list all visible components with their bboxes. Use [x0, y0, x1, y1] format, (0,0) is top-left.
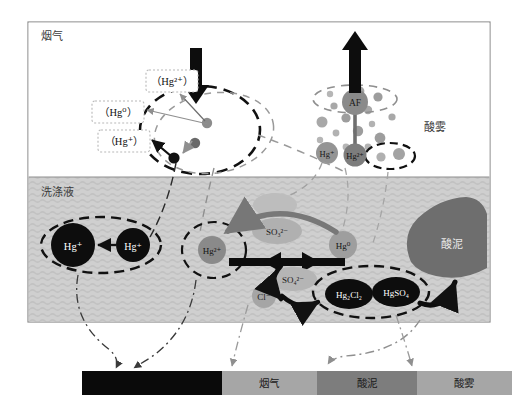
hg-plus-right-label: Hg⁺: [124, 241, 142, 252]
hg-0-right-label: Hg⁰: [336, 241, 351, 251]
leader-line-acid-sludge: [328, 320, 420, 364]
legend-label-acid-mist: 酸雾: [454, 377, 475, 389]
legend-segment-dark[interactable]: [82, 371, 222, 395]
flue-gas-zone: [29, 23, 490, 178]
species-box-hgplus: （Hg⁺）: [98, 130, 150, 152]
acid-mist-label: 酸雾: [424, 120, 446, 133]
species-box-hg0: （Hg⁰）: [92, 101, 144, 123]
legend-bar: 烟气 酸泥 酸雾: [82, 371, 512, 395]
acid-sludge-blob-label: 酸泥: [441, 237, 463, 250]
hg-2plus-mist-label: Hg²⁺: [346, 151, 363, 161]
af-label: AF: [349, 98, 361, 108]
legend-label-flue-gas: 烟气: [259, 377, 280, 389]
diagram-canvas: 烟气 洗涤液 酸雾 （Hg²⁺） （Hg⁰） （Hg⁺）: [0, 0, 519, 413]
flue-gas-label: 烟气: [41, 29, 63, 42]
mist-particle-a: [376, 152, 385, 161]
hg2cl2-label: Hg₂Cl₂: [336, 290, 362, 300]
figure-root: 烟气 洗涤液 酸雾 （Hg²⁺） （Hg⁰） （Hg⁺）: [0, 0, 519, 413]
hgso4-label: HgSO₄: [383, 288, 409, 298]
species-label-hg2plus: （Hg²⁺）: [151, 76, 193, 87]
cl-label: Cl⁻: [257, 292, 271, 302]
hg-plus-left-label: Hg⁺: [64, 241, 82, 252]
species-box-hg2plus: （Hg²⁺）: [146, 70, 198, 92]
scrub-liquid-label: 洗涤液: [41, 185, 74, 198]
hg-plus-mist-label: Hg⁺: [320, 149, 335, 159]
legend-label-acid-sludge: 酸泥: [357, 377, 378, 389]
mist-particle-b: [393, 148, 405, 160]
leader-line-acid-mist: [396, 315, 412, 366]
so3-label: SO₃²⁻: [266, 227, 288, 237]
species-label-hgplus: （Hg⁺）: [105, 136, 143, 147]
hg-2plus-center-label: Hg²⁺: [203, 246, 222, 256]
species-label-hg0: （Hg⁰）: [99, 107, 136, 118]
so4-label: SO₄²⁻: [282, 275, 304, 285]
